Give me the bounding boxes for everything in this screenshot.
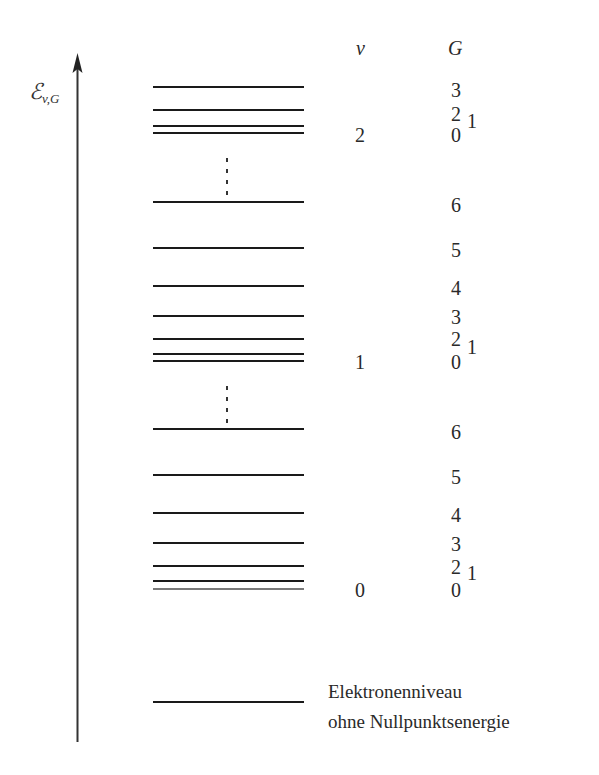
ellipsis-dot <box>226 419 228 423</box>
energy-level-diagram <box>0 0 599 775</box>
ellipsis-dot <box>226 397 228 401</box>
G-label: 1 <box>467 111 477 131</box>
v-label: 0 <box>355 580 365 600</box>
G-label: 3 <box>451 534 461 554</box>
ellipsis-dot <box>226 158 228 162</box>
caption-line-2: ohne Nullpunktsenergie <box>328 707 510 737</box>
G-label: 0 <box>451 580 461 600</box>
energy-axis-label: ℰv,G <box>29 79 59 107</box>
G-label: 0 <box>451 125 461 145</box>
ellipsis-dot <box>226 169 228 173</box>
electron-level-caption: Elektronenniveau ohne Nullpunktsenergie <box>328 677 510 737</box>
G-label: 0 <box>451 352 461 372</box>
G-label: 4 <box>451 505 461 525</box>
caption-line-1: Elektronenniveau <box>328 677 510 707</box>
G-label: 1 <box>467 337 477 357</box>
G-label: 2 <box>451 557 461 577</box>
energy-levels <box>153 87 304 589</box>
ellipsis-dot <box>226 386 228 390</box>
G-label: 3 <box>451 80 461 100</box>
G-label: 1 <box>467 563 477 583</box>
G-label: 2 <box>451 329 461 349</box>
energy-axis <box>73 53 83 742</box>
column-header-v: v <box>356 38 365 58</box>
v-label: 2 <box>355 125 365 145</box>
G-label: 4 <box>451 278 461 298</box>
G-label: 2 <box>451 104 461 124</box>
column-header-G: G <box>448 38 462 58</box>
ellipsis-dot <box>226 191 228 195</box>
axis-symbol: ℰ <box>29 79 42 104</box>
v-label: 1 <box>355 352 365 372</box>
ellipsis-dot <box>226 408 228 412</box>
ellipsis-dots <box>226 158 228 423</box>
G-label: 6 <box>451 422 461 442</box>
ellipsis-dot <box>226 180 228 184</box>
axis-subscript: v,G <box>42 91 59 106</box>
G-label: 5 <box>451 467 461 487</box>
G-label: 6 <box>451 195 461 215</box>
G-label: 3 <box>451 307 461 327</box>
G-label: 5 <box>451 240 461 260</box>
